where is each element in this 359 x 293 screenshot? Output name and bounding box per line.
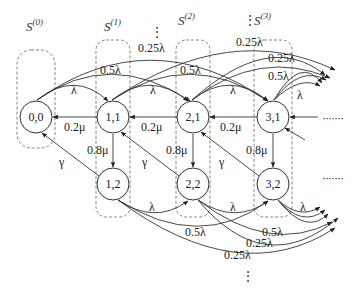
svg-text:0,0: 0,0 <box>29 110 44 124</box>
label-gamma-32-21: γ <box>218 155 225 169</box>
svg-text:2,1: 2,1 <box>186 110 201 124</box>
label-gamma-12-00: γ <box>58 155 65 169</box>
vertical-dots-bottom: ⋮ <box>242 269 254 283</box>
horizontal-dots-row1: ······· <box>322 111 343 125</box>
label-mu-back-31-21: 0.2μ <box>220 120 241 134</box>
label-lambda-32-right: λ <box>300 200 306 214</box>
set-label-s0: S(0) <box>26 17 43 34</box>
vertical-dots-top-1: ⋮ <box>151 25 163 39</box>
label-mu-down-11-12: 0.8μ <box>87 143 108 157</box>
node-3-1: 3,1 <box>257 101 289 133</box>
set-label-s2: S(2) <box>178 11 195 28</box>
label-quarter-lambda-21-right: 0.25λ <box>268 51 295 65</box>
label-quarter-lambda-12-right: 0.25λ <box>224 248 251 262</box>
node-3-2: 3,2 <box>257 168 289 200</box>
markov-chain-diagram: S(0) S(1) S(2) S(3) ⋮ ⋮ ⋮ λ 0.5λ 0.25λ λ… <box>0 0 359 293</box>
svg-text:1,1: 1,1 <box>106 110 121 124</box>
set-label-s1: S(1) <box>104 17 121 34</box>
vertical-dots-top-2: ⋮ <box>244 13 256 27</box>
set-labels: S(0) S(1) S(2) S(3) <box>26 11 271 34</box>
label-mu-back-11-00: 0.2μ <box>64 120 85 134</box>
node-2-1: 2,1 <box>177 101 209 133</box>
label-gamma-22-11: γ <box>141 155 148 169</box>
node-0-0: 0,0 <box>20 101 52 133</box>
label-quarter-lambda-11-41: 0.25λ <box>236 35 263 49</box>
node-1-1: 1,1 <box>97 101 129 133</box>
label-lambda-21-31: λ <box>230 83 236 97</box>
set-label-s3: S(3) <box>254 11 271 28</box>
node-1-2: 1,2 <box>97 168 129 200</box>
label-mu-down-21-22: 0.8μ <box>166 143 187 157</box>
label-half-lambda-12-32: 0.5λ <box>185 225 206 239</box>
svg-text:3,2: 3,2 <box>266 177 281 191</box>
svg-text:2,2: 2,2 <box>186 177 201 191</box>
label-lambda-31-right: λ <box>297 88 303 102</box>
label-half-lambda-00-21: 0.5λ <box>100 63 121 77</box>
label-lambda-12-22: λ <box>149 200 155 214</box>
label-lambda-22-32: λ <box>230 200 236 214</box>
svg-text:3,1: 3,1 <box>266 110 281 124</box>
label-mu-down-31-32: 0.8μ <box>246 143 267 157</box>
svg-text:1,2: 1,2 <box>106 177 121 191</box>
label-lambda-11-21: λ <box>150 83 156 97</box>
label-mu-back-21-11: 0.2μ <box>141 120 162 134</box>
horizontal-dots-row2: ······· <box>322 171 343 185</box>
gamma-edges <box>42 132 259 176</box>
label-quarter-lambda-00-31: 0.25λ <box>138 41 165 55</box>
label-half-lambda-11-31: 0.5λ <box>180 63 201 77</box>
label-lambda-00-11: λ <box>71 83 77 97</box>
node-2-2: 2,2 <box>177 168 209 200</box>
label-half-lambda-21-right: 0.5λ <box>268 69 289 83</box>
